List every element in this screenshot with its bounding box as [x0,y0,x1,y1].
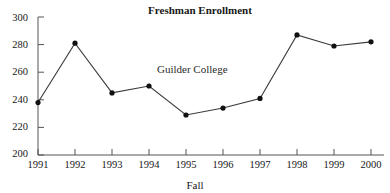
plot-area [0,0,390,193]
data-point-2000 [368,39,373,44]
x-tick-marks [38,149,371,155]
y-tick-marks [38,17,44,155]
series-markers [35,32,373,117]
data-point-1997 [257,96,262,101]
data-point-1992 [72,41,77,46]
data-point-1993 [109,90,114,95]
data-point-1999 [331,43,336,48]
axis-spines [38,17,384,155]
chart-figure: Freshman Enrollment 300 280 260 240 220 … [0,0,390,193]
data-point-1994 [146,83,151,88]
data-point-1995 [183,112,188,117]
series-line-guilder-college [38,35,371,115]
data-point-1996 [220,105,225,110]
data-point-1998 [294,32,299,37]
data-point-1991 [35,100,40,105]
